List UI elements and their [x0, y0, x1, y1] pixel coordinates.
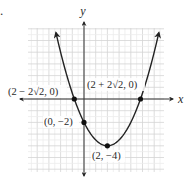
- point-labels: (2 − 2√2, 0) (2 + 2√2, 0) (0, −2) (2, −4…: [6, 78, 145, 162]
- x-axis-label: x: [177, 92, 184, 106]
- point-marker: [105, 143, 110, 148]
- parabola-graph: x y (2 − 2√2, 0) (2 + 2√2, 0) (0, −2) (2…: [0, 0, 191, 182]
- right-intercept-label: (2 + 2√2, 0): [87, 79, 138, 91]
- y-intercept-label: (0, −2): [44, 116, 73, 128]
- point-marker: [138, 96, 143, 101]
- vertex-label: (2, −4): [92, 150, 121, 162]
- point-marker: [81, 120, 86, 125]
- y-axis-label: y: [79, 4, 86, 18]
- point-marker: [72, 96, 77, 101]
- left-intercept-label: (2 − 2√2, 0): [8, 86, 59, 98]
